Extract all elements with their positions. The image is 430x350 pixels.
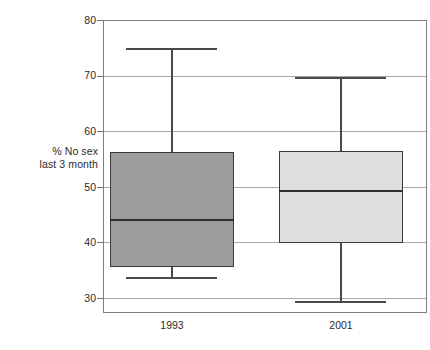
- median-line-1993: [110, 219, 234, 221]
- whisker-upper-cap-2001: [295, 77, 386, 79]
- whisker-lower-cap-1993: [126, 277, 217, 279]
- gridline-30: [104, 298, 426, 299]
- y-tick-label-50: 50: [68, 182, 96, 192]
- y-tick-label-30: 30: [68, 293, 96, 303]
- y-axis-label-line-2: last 3 month: [14, 158, 98, 171]
- y-axis-label: % No sex last 3 month: [14, 145, 98, 171]
- y-tick-label-70: 70: [68, 70, 96, 80]
- x-tick-label-1993: 1993: [142, 320, 202, 331]
- median-line-2001: [279, 190, 403, 192]
- x-tick-label-2001: 2001: [311, 320, 371, 331]
- box-1993: [110, 152, 234, 267]
- whisker-upper-stem-2001: [340, 77, 342, 152]
- whisker-upper-stem-1993: [171, 48, 173, 152]
- y-axis-label-line-1: % No sex: [14, 145, 98, 158]
- y-tick-label-60: 60: [68, 126, 96, 136]
- whisker-upper-cap-1993: [126, 48, 217, 50]
- box-2001: [279, 151, 403, 243]
- gridline-60: [104, 131, 426, 132]
- whisker-lower-stem-2001: [340, 243, 342, 301]
- box-plot-chart: % No sex last 3 month 80 70 60 50 40 30 …: [0, 0, 430, 350]
- y-tick-label-40: 40: [68, 237, 96, 247]
- whisker-lower-cap-2001: [295, 301, 386, 303]
- y-tick-label-80: 80: [68, 15, 96, 25]
